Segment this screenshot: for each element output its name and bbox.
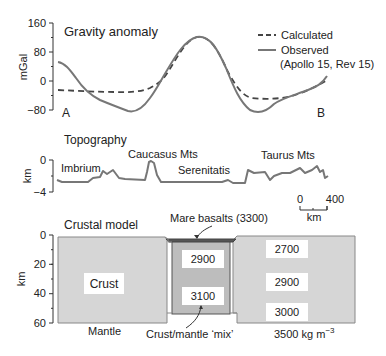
crust-label: Crust [90, 277, 119, 291]
scale-bar-end: 400 [326, 193, 344, 205]
crustal-ytick-40: 40 [34, 287, 46, 299]
gravity-ytick-160: 160 [28, 17, 46, 29]
topography-ytick-minus4: −4 [33, 186, 46, 198]
mix-label: Crust/mantle ‘mix’ [146, 328, 233, 340]
gravity-ylabel: mGal [17, 54, 29, 80]
legend-observed-note: (Apollo 15, Rev 15) [280, 58, 374, 70]
mantle-density-label: 3500 kg m−3 [274, 326, 335, 340]
gravity-ytick-80: 80 [34, 46, 46, 58]
label-serenitatis: Serenitatis [178, 164, 230, 176]
crustal-model-title: Crustal model [64, 218, 138, 232]
crustal-ytick-60: 60 [34, 317, 46, 329]
legend-calculated-label: Calculated [281, 29, 333, 41]
gravity-title: Gravity anomaly [64, 24, 158, 39]
crustal-ytick-0: 0 [40, 229, 46, 241]
mare-basalts-arrowhead [194, 235, 199, 239]
scale-bar-unit: km [307, 211, 322, 223]
mare-basalts-label: Mare basalts (3300) [170, 212, 268, 224]
point-b-label: B [317, 106, 325, 120]
scale-bar-line [300, 206, 327, 210]
topography-title: Topography [64, 133, 127, 147]
density-right-lower: 3000 [275, 306, 299, 318]
legend-observed-label: Observed [281, 44, 329, 56]
figure: 160 80 0 −80 mGal Gravity anomaly A B Ca… [0, 0, 386, 356]
label-imbrium: Imbrium [61, 162, 101, 174]
mare-basalt-layer [166, 239, 236, 242]
topography-ylabel: km [21, 169, 33, 184]
density-mix-upper: 2900 [191, 253, 215, 265]
gravity-ytick-minus80: −80 [27, 104, 46, 116]
gravity-ticks [49, 23, 53, 110]
legend: Calculated Observed (Apollo 15, Rev 15) [258, 29, 374, 70]
crustal-ytick-20: 20 [34, 258, 46, 270]
label-taurus: Taurus Mts [261, 149, 315, 161]
scale-bar: 0 400 km [297, 193, 344, 223]
topography-ytick-0: 0 [40, 154, 46, 166]
crustal-ylabel: km [15, 272, 27, 287]
scale-bar-start: 0 [297, 193, 303, 205]
density-mix-lower: 3100 [191, 290, 215, 302]
crustal-ticks [49, 235, 53, 323]
density-right-middle: 2900 [275, 276, 299, 288]
mantle-label: Mantle [88, 325, 121, 337]
gravity-panel: 160 80 0 −80 mGal Gravity anomaly A B Ca… [17, 17, 374, 120]
gravity-ytick-0: 0 [40, 75, 46, 87]
crustal-model-panel: Crustal model 0 20 40 60 km Crust [15, 212, 355, 340]
label-caucasus: Caucasus Mts [128, 148, 198, 160]
topography-ticks [49, 160, 53, 192]
density-right-upper: 2700 [275, 243, 299, 255]
mare-basalts-arrow [197, 226, 212, 238]
point-a-label: A [62, 106, 70, 120]
topography-panel: Topography 0 −4 km Imbrium Caucasus Mts … [21, 133, 344, 223]
